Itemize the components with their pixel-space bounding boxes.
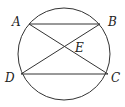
circle <box>18 8 110 100</box>
label-a: A <box>11 15 21 29</box>
label-d: D <box>4 71 15 85</box>
chord-bd <box>21 24 100 74</box>
label-b: B <box>107 15 117 29</box>
geometry-diagram: A B C D E <box>0 0 125 107</box>
label-e: E <box>74 41 84 55</box>
chord-ac <box>29 24 108 74</box>
label-c: C <box>111 71 120 85</box>
